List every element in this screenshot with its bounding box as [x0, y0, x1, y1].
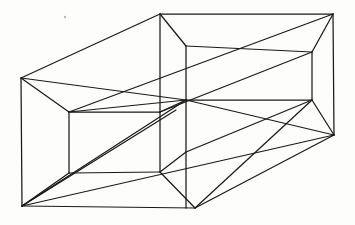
wireframe-drawing	[0, 0, 355, 225]
paper-speck-mark	[64, 16, 66, 18]
drawing-background	[0, 0, 355, 225]
figure-canvas	[0, 0, 355, 225]
